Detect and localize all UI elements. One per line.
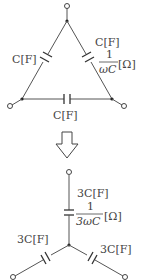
star-right-terminal: [123, 275, 128, 280]
delta-left-label: C[F]: [12, 53, 37, 66]
star-left-terminal: [11, 275, 16, 280]
delta-right-capacitor: [82, 52, 94, 62]
star-top-label: 3C[F]: [77, 187, 109, 200]
star-top-impedance-den: 3ωC: [76, 215, 101, 228]
star-top-impedance-unit: [Ω]: [104, 210, 122, 223]
star-right-capacitor: [88, 252, 97, 264]
delta-network: C[F] C[F] 1 ωC [Ω] C[F]: [8, 4, 136, 123]
delta-star-diagram: C[F] C[F] 1 ωC [Ω] C[F]: [0, 0, 141, 280]
delta-top-terminal: [65, 4, 70, 9]
star-top-impedance-num: 1: [87, 200, 94, 213]
star-network: 3C[F] 1 3ωC [Ω] 3C[F] 3C[F]: [11, 170, 132, 280]
delta-right-impedance-num: 1: [106, 48, 113, 61]
delta-left-terminal: [8, 104, 13, 109]
star-left-capacitor: [41, 252, 50, 264]
star-top-capacitor: [64, 210, 74, 215]
delta-right-impedance-den: ωC: [99, 63, 117, 76]
star-right-label: 3C[F]: [100, 243, 132, 256]
star-left-label: 3C[F]: [17, 233, 49, 246]
delta-left-capacitor: [40, 52, 52, 62]
delta-bottom-label: C[F]: [53, 109, 78, 122]
delta-bottom-capacitor: [64, 94, 70, 104]
delta-right-impedance-unit: [Ω]: [118, 58, 136, 71]
transform-arrow-icon: [56, 132, 78, 158]
delta-right-terminal: [122, 104, 127, 109]
star-top-terminal: [67, 170, 72, 175]
